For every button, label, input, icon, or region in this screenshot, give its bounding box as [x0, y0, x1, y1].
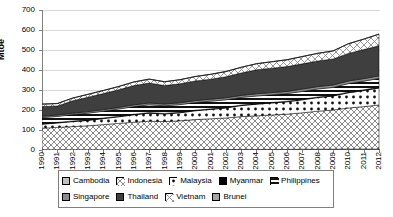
legend-swatch-icon	[116, 193, 124, 201]
x-tick-label: 1990	[38, 152, 46, 170]
x-tick-label: 2002	[222, 152, 230, 170]
legend-label: Philippines	[281, 177, 320, 185]
legend-item-myanmar[interactable]: Myanmar	[219, 177, 263, 185]
y-tick-label: 400	[22, 66, 35, 74]
legend-label: Brunei	[223, 193, 246, 201]
legend-item-indonesia[interactable]: Indonesia	[116, 177, 162, 185]
y-tick-label: 100	[22, 126, 35, 134]
x-tick-label: 1992	[69, 152, 77, 170]
y-axis-labels: 0100200300400500600700	[0, 10, 40, 150]
x-tick-label: 1993	[84, 152, 92, 170]
x-tick-label: 2000	[191, 152, 199, 170]
legend-swatch-icon	[270, 177, 278, 185]
legend-item-brunei[interactable]: Brunei	[212, 193, 246, 201]
x-tick-label: 2008	[314, 152, 322, 170]
x-tick-label: 2010	[344, 152, 352, 170]
legend-label: Thailand	[127, 193, 158, 201]
x-tick-label: 1994	[99, 152, 107, 170]
x-tick-label: 1997	[145, 152, 153, 170]
x-tick-label: 2004	[252, 152, 260, 170]
x-tick-label: 2003	[237, 152, 245, 170]
x-tick-label: 2005	[268, 152, 276, 170]
chart-legend: CambodiaIndonesiaMalaysiaMyanmarPhilippi…	[58, 170, 334, 208]
x-tick-label: 2009	[329, 152, 337, 170]
legend-item-malaysia[interactable]: Malaysia	[169, 177, 212, 185]
legend-label: Cambodia	[73, 177, 109, 185]
x-tick-label: 1991	[53, 152, 61, 170]
x-tick-label: 1999	[176, 152, 184, 170]
stacked-area-series	[42, 10, 380, 150]
legend-row-2: SingaporeThailandVietnamBrunei	[62, 189, 330, 205]
chart-container: Mtoe 0100200300400500600700	[0, 0, 393, 217]
y-tick-label: 200	[22, 106, 35, 114]
y-tick-label: 300	[22, 86, 35, 94]
y-tick-label: 0	[31, 146, 35, 154]
legend-swatch-icon	[165, 193, 173, 201]
legend-item-thailand[interactable]: Thailand	[116, 193, 158, 201]
legend-label: Singapore	[73, 193, 109, 201]
legend-swatch-icon	[62, 177, 70, 185]
x-tick-label: 1995	[115, 152, 123, 170]
x-tick-label: 2006	[283, 152, 291, 170]
legend-swatch-icon	[116, 177, 124, 185]
legend-item-vietnam[interactable]: Vietnam	[165, 193, 205, 201]
x-tick-label: 1998	[161, 152, 169, 170]
y-tick-label: 500	[22, 46, 35, 54]
legend-swatch-icon	[62, 193, 70, 201]
legend-label: Malaysia	[180, 177, 212, 185]
x-tick-label: 1996	[130, 152, 138, 170]
legend-swatch-icon	[169, 177, 177, 185]
legend-item-cambodia[interactable]: Cambodia	[62, 177, 109, 185]
x-tick-label: 2012	[375, 152, 383, 170]
legend-label: Indonesia	[127, 177, 162, 185]
legend-swatch-icon	[219, 177, 227, 185]
legend-label: Myanmar	[230, 177, 263, 185]
y-tick-label: 600	[22, 26, 35, 34]
x-tick-label: 2007	[298, 152, 306, 170]
legend-label: Vietnam	[176, 193, 205, 201]
legend-swatch-icon	[212, 193, 220, 201]
y-tick-label: 700	[22, 6, 35, 14]
legend-item-philippines[interactable]: Philippines	[270, 177, 320, 185]
legend-item-singapore[interactable]: Singapore	[62, 193, 109, 201]
x-tick-label: 2011	[360, 152, 368, 169]
legend-row-1: CambodiaIndonesiaMalaysiaMyanmarPhilippi…	[62, 173, 330, 189]
x-tick-label: 2001	[207, 152, 215, 170]
